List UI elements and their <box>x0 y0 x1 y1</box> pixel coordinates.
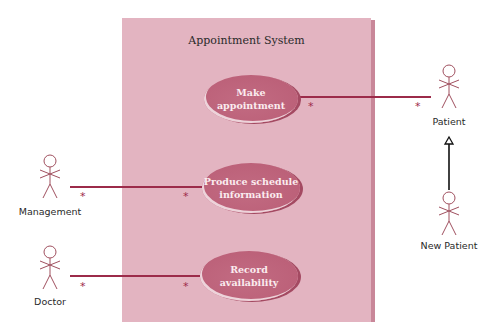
use-case-label-line: availability <box>220 276 279 289</box>
use-case-record-availability[interactable]: Record availability <box>200 251 298 301</box>
use-case-label-line: Make <box>217 86 285 99</box>
multiplicity-make-appointment: * <box>308 101 314 112</box>
use-case-label-line: information <box>204 188 298 201</box>
use-case-diagram: Appointment System <box>0 0 497 335</box>
actor-label-patient: Patient <box>404 116 494 127</box>
multiplicity-management: * <box>80 191 86 202</box>
use-case-produce-schedule[interactable]: Produce schedule information <box>202 163 300 213</box>
actor-label-management: Management <box>5 206 95 217</box>
multiplicity-doctor: * <box>80 281 86 292</box>
actor-label-new-patient: New Patient <box>404 240 494 251</box>
actor-label-doctor: Doctor <box>5 296 95 307</box>
actor-doctor-figure[interactable] <box>40 246 60 289</box>
generalization-arrow <box>445 137 453 190</box>
multiplicity-produce-schedule: * <box>183 191 189 202</box>
actor-patient-figure[interactable] <box>439 65 459 108</box>
use-case-label-line: appointment <box>217 99 285 112</box>
actor-new-patient-figure[interactable] <box>439 192 459 235</box>
use-case-label-line: Record <box>220 263 279 276</box>
use-case-label-line: Produce schedule <box>204 175 298 188</box>
use-case-make-appointment[interactable]: Make appointment <box>204 75 298 123</box>
multiplicity-record-availability: * <box>183 281 189 292</box>
actor-management-figure[interactable] <box>40 155 60 198</box>
multiplicity-patient: * <box>415 101 421 112</box>
